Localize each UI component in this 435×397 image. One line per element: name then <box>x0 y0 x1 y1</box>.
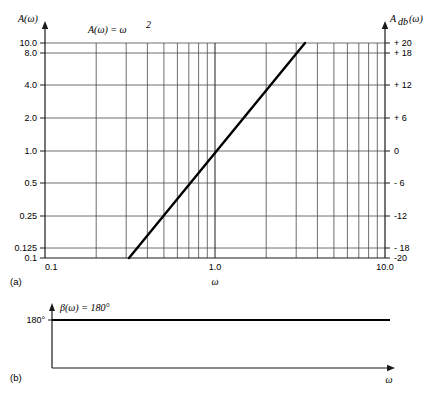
bode-plot-figure: 10.0 8.0 4.0 2.0 1.0 0.5 0.25 0.125 0.1 … <box>0 0 435 397</box>
y-axis-right-label-group: A db (ω) <box>389 13 423 27</box>
y-axis-right-label-tail: (ω) <box>409 13 423 25</box>
panel-b-y-axis <box>49 303 55 368</box>
curve-annotation-group: A(ω) = ω 2 <box>87 19 151 36</box>
magnitude-curve <box>129 43 305 258</box>
tick-label-x-0: 0.1 <box>45 262 58 272</box>
tick-label-right-8: -20 <box>394 253 407 263</box>
curve-annotation-exponent: 2 <box>146 19 151 30</box>
tick-label-left-3: 2.0 <box>24 113 37 123</box>
tick-label-left-2: 4.0 <box>24 80 37 90</box>
panel-b-x-axis-label: ω <box>385 374 392 385</box>
tick-label-right-4: 0 <box>394 146 399 156</box>
curve-annotation: A(ω) = ω <box>87 24 127 36</box>
panel-b-x-axis <box>52 365 395 371</box>
arrowhead-up-left <box>42 21 48 29</box>
panel-a-right-tickmarks <box>385 43 390 258</box>
panel-a-tag: (a) <box>10 276 22 287</box>
figure-canvas: 10.0 8.0 4.0 2.0 1.0 0.5 0.25 0.125 0.1 … <box>0 0 435 397</box>
tick-label-left-0: 10.0 <box>19 38 37 48</box>
tick-label-right-2: + 12 <box>394 80 412 90</box>
tick-label-x-1: 1.0 <box>209 262 222 272</box>
tick-label-left-4: 1.0 <box>24 146 37 156</box>
panel-a-group: 10.0 8.0 4.0 2.0 1.0 0.5 0.25 0.125 0.1 … <box>10 13 423 287</box>
tick-label-left-1: 8.0 <box>24 48 37 58</box>
tick-label-right-0: + 20 <box>394 38 412 48</box>
tick-label-left-8: 0.1 <box>24 253 37 263</box>
panel-a-left-tickmarks <box>40 43 45 258</box>
tick-label-right-3: + 6 <box>394 113 407 123</box>
tick-label-x-2: 10.0 <box>376 262 394 272</box>
tick-label-right-6: -12 <box>394 211 407 221</box>
panel-b-annotation: β(ω) = 180° <box>59 302 109 314</box>
arrowhead-right-panel-b <box>387 365 395 371</box>
arrowhead-up-panel-b <box>49 303 55 311</box>
tick-label-right-1: + 18 <box>394 48 412 58</box>
x-axis-label: ω <box>211 276 218 287</box>
panel-a-y-axis-right-arrow <box>382 21 388 43</box>
y-axis-right-label-sub: db <box>398 16 408 27</box>
y-axis-right-label: A <box>389 13 397 24</box>
panel-a-vertical-gridlines-decade2 <box>266 43 377 258</box>
tick-label-left-6: 0.25 <box>19 211 37 221</box>
tick-label-left-7: 0.125 <box>14 243 37 253</box>
arrowhead-up-right <box>382 21 388 29</box>
panel-b-tag: (b) <box>10 372 22 383</box>
tick-label-right-7: - 18 <box>394 243 410 253</box>
tick-label-left-5: 0.5 <box>24 178 37 188</box>
tick-label-right-5: - 6 <box>394 178 405 188</box>
panel-a-vertical-gridlines-decade1 <box>96 43 207 258</box>
y-axis-label: A(ω) <box>17 13 38 25</box>
panel-b-group: 180° β(ω) = 180° ω (b) <box>10 302 395 385</box>
panel-b-y-tick-label: 180° <box>26 315 45 325</box>
panel-a-y-axis-arrow <box>42 21 48 43</box>
